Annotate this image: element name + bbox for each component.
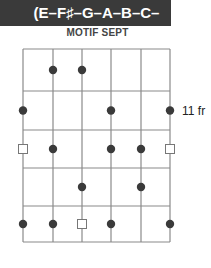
note-dot-icon (49, 66, 57, 74)
note-dot-icon (78, 183, 86, 191)
note-dot-icon (49, 220, 57, 228)
note-dot-icon (107, 220, 115, 228)
root-note-square-icon (166, 145, 175, 154)
root-note-square-icon (78, 220, 87, 229)
fretboard-diagram (0, 0, 211, 268)
note-dot-icon (107, 106, 115, 114)
note-dot-icon (137, 145, 145, 153)
note-dot-icon (19, 220, 27, 228)
note-dot-icon (107, 145, 115, 153)
note-dot-icon (19, 106, 27, 114)
note-dot-icon (49, 145, 57, 153)
root-note-square-icon (19, 145, 28, 154)
note-dot-icon (78, 66, 86, 74)
fret-position-label: 11 fr (182, 104, 205, 118)
note-dot-icon (166, 106, 174, 114)
note-dot-icon (166, 220, 174, 228)
note-dot-icon (137, 183, 145, 191)
